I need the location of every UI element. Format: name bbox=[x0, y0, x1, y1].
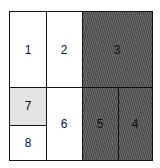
cell-3: 3 bbox=[82, 12, 152, 87]
cell-1: 1 bbox=[10, 12, 46, 87]
cell-8-label: 8 bbox=[25, 136, 32, 150]
divider bbox=[46, 12, 47, 160]
cell-7-label: 7 bbox=[25, 99, 32, 113]
divider bbox=[10, 125, 46, 126]
cell-3-label: 3 bbox=[114, 43, 121, 57]
divider bbox=[10, 87, 152, 88]
diagram-frame: 1 2 3 7 8 6 5 4 bbox=[9, 11, 153, 161]
cell-6: 6 bbox=[46, 87, 82, 160]
cell-2-label: 2 bbox=[61, 43, 68, 57]
divider bbox=[82, 12, 83, 160]
cell-6-label: 6 bbox=[61, 117, 68, 131]
cell-5-label: 5 bbox=[97, 117, 104, 131]
divider bbox=[118, 87, 119, 160]
cell-4: 4 bbox=[118, 87, 152, 160]
cell-1-label: 1 bbox=[25, 43, 32, 57]
cell-8: 8 bbox=[10, 125, 46, 160]
cell-7: 7 bbox=[10, 87, 46, 125]
cell-5: 5 bbox=[82, 87, 118, 160]
cell-2: 2 bbox=[46, 12, 82, 87]
cell-4-label: 4 bbox=[132, 117, 139, 131]
